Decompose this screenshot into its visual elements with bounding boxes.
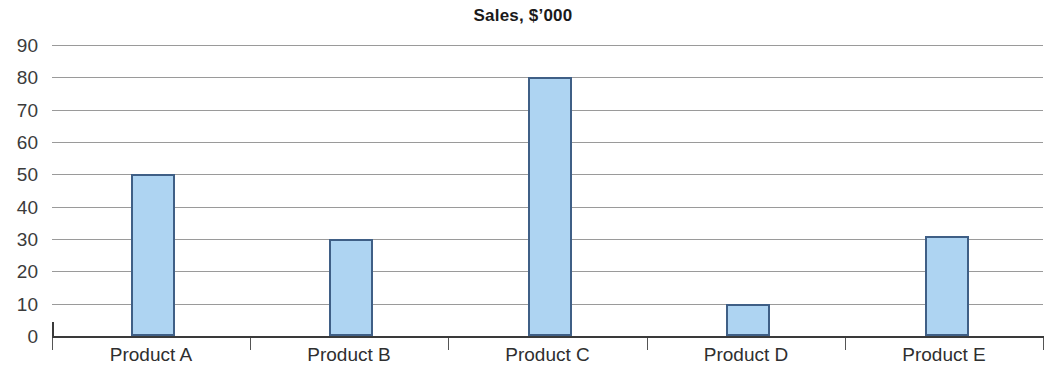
y-axis-line [52, 322, 54, 338]
y-tick-70: 70 [0, 100, 44, 119]
gridline-90 [52, 45, 1043, 46]
bar-chart: Sales, $’000 90 80 70 60 50 40 30 20 10 … [0, 0, 1046, 369]
plot-area [52, 45, 1043, 336]
y-axis-tick-labels: 90 80 70 60 50 40 30 20 10 0 [0, 45, 44, 336]
y-tick-90: 90 [0, 36, 44, 55]
chart-title: Sales, $’000 [0, 6, 1046, 26]
bar-product-a [131, 174, 175, 336]
y-tick-40: 40 [0, 197, 44, 216]
y-tick-30: 30 [0, 230, 44, 249]
bar-product-d [726, 304, 770, 336]
x-label-product-a: Product A [52, 345, 250, 366]
bar-product-c [528, 77, 572, 336]
x-label-product-e: Product E [845, 345, 1043, 366]
bar-product-e [925, 236, 969, 336]
y-tick-60: 60 [0, 133, 44, 152]
bar-product-b [329, 239, 373, 336]
x-label-product-d: Product D [647, 345, 845, 366]
x-axis-line [52, 336, 1044, 338]
y-tick-0: 0 [0, 327, 44, 346]
x-label-product-c: Product C [448, 345, 647, 366]
y-tick-20: 20 [0, 262, 44, 281]
x-axis-tick-5 [1043, 338, 1044, 350]
x-label-product-b: Product B [250, 345, 448, 366]
y-tick-80: 80 [0, 68, 44, 87]
y-tick-10: 10 [0, 294, 44, 313]
y-tick-50: 50 [0, 165, 44, 184]
